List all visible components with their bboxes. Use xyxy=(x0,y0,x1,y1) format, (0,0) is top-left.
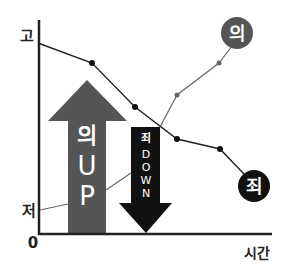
data-point xyxy=(217,61,222,66)
righteousness-badge-text: 의 xyxy=(229,23,246,44)
down-arrow-label-n: N xyxy=(142,187,150,200)
down-arrow-label-w: W xyxy=(141,174,152,187)
y-low-label: 저 xyxy=(22,202,36,220)
data-point xyxy=(174,136,180,142)
sin-badge: 죄 xyxy=(238,170,270,202)
up-arrow-label-korean: 의 xyxy=(77,123,97,148)
down-arrow-label-d: D xyxy=(142,148,150,161)
x-axis-label: 시간 xyxy=(244,245,270,261)
down-arrow-label-o: O xyxy=(142,161,151,174)
data-point xyxy=(89,60,95,66)
sin-badge-text: 죄 xyxy=(246,176,263,197)
down-arrow-label-korean: 죄 xyxy=(141,131,151,145)
diagram-canvas: 고 저 0 시간 의 U P 죄 D O W N 의 죄 xyxy=(0,0,289,272)
origin-label: 0 xyxy=(28,234,38,252)
y-high-label: 고 xyxy=(20,27,34,45)
up-arrow-label-u: U xyxy=(77,151,96,181)
data-point xyxy=(132,104,138,110)
righteousness-badge: 의 xyxy=(221,17,253,49)
data-point xyxy=(217,146,223,152)
up-arrow-label-p: P xyxy=(79,181,95,211)
data-point xyxy=(175,93,180,98)
